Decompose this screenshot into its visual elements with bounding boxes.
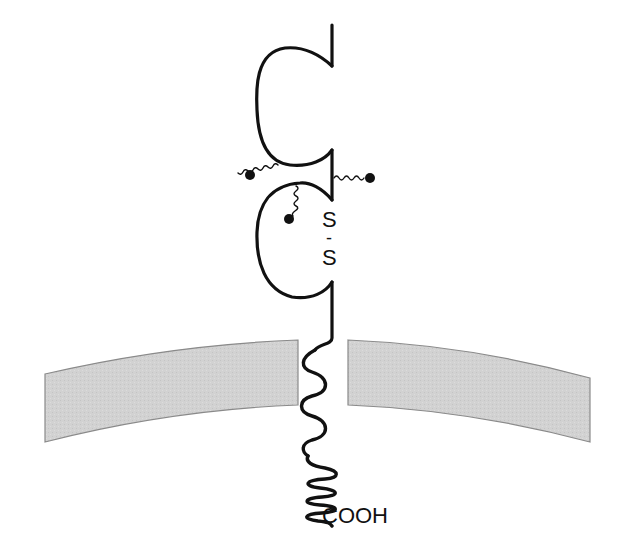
transmembrane-segment <box>302 350 326 456</box>
glycan-terminal-2 <box>365 173 375 183</box>
membrane-right <box>348 340 590 442</box>
glycan-chain-3 <box>292 186 298 216</box>
glycan-chain-2 <box>334 176 364 180</box>
glycan-chain-1 <box>238 164 278 175</box>
membrane-left <box>45 340 298 442</box>
disulfide-s-bottom: S <box>322 245 337 270</box>
receptor-diagram: S - S COOH <box>0 0 633 546</box>
glycan-terminal-3 <box>284 214 294 224</box>
extracellular-domain-1 <box>257 48 332 166</box>
c-terminus-label: COOH <box>322 503 388 528</box>
extracellular-domain-2 <box>257 183 332 298</box>
glycan-terminal-1 <box>245 170 255 180</box>
